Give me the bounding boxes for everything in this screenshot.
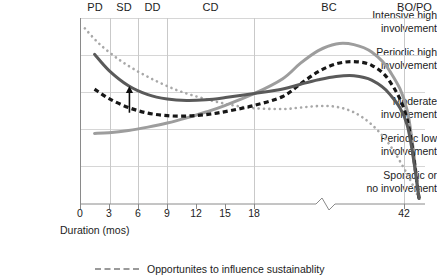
legend-label-opportunites-to-influence-sustainablity: Opportunites to influence sustainablity <box>147 263 324 275</box>
x-tick-label-18: 18 <box>241 207 267 219</box>
phase-label-cd: CD <box>167 1 254 14</box>
phase-label-pd: PD <box>80 1 110 14</box>
x-tick-label-15: 15 <box>212 207 238 219</box>
chart-svg <box>80 18 425 218</box>
phase-label-sd: SD <box>110 1 138 14</box>
x-tick-label-12: 12 <box>183 207 209 219</box>
series-line-light-gray-solid-curve <box>95 43 420 198</box>
series-line-dark-gray-solid-curve <box>95 54 420 198</box>
x-tick-label-42: 42 <box>391 207 417 219</box>
x-tick-label-0: 0 <box>67 207 93 219</box>
x-tick-label-3: 3 <box>96 207 122 219</box>
legend-swatch-dotted <box>95 268 139 270</box>
series-line-black-dashed-curve <box>95 62 420 199</box>
plot-area <box>80 18 425 204</box>
x-tick-label-6: 6 <box>125 207 151 219</box>
chart-figure: PD SD DD CD BC BO/PO Intensive high invo… <box>0 0 437 278</box>
x-axis-title: Duration (mos) <box>60 224 129 236</box>
x-tick-label-9: 9 <box>154 207 180 219</box>
series-line-opportunites-to-influence-sustainablity <box>85 28 419 198</box>
phase-label-dd: DD <box>138 1 167 14</box>
chart-legend: Opportunites to influence sustainablity <box>95 263 324 275</box>
